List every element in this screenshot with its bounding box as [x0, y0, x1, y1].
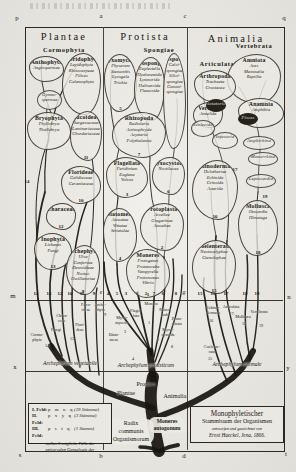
line-letter-e: e	[100, 289, 103, 295]
stem-label: 16	[209, 319, 213, 324]
stem-label: Cormo- phyta	[30, 333, 43, 342]
moneres-autogonum-label: Moneres autogonum	[149, 417, 185, 433]
legend-corners: p s t q	[48, 426, 74, 433]
stem-number: 4	[107, 291, 109, 296]
stem-number: 13	[47, 291, 52, 296]
stem-label: Chara- ceae	[56, 314, 67, 323]
stem-label: 1	[148, 321, 150, 326]
frame-letter-c: c	[183, 12, 186, 19]
stem-number: 17	[233, 167, 238, 172]
annotation-layer: PlantaeProtistaAnimaliapacqmnxysbdt14131…	[0, 0, 296, 472]
stem-number: 9	[93, 291, 95, 296]
stem-number: 1	[136, 291, 138, 296]
frame-letter-y: y	[286, 364, 289, 371]
stem-label: Proto- plasta	[172, 317, 182, 326]
stem-label: Flagel- lata	[130, 309, 142, 318]
trunk-kingdom-label-protista: Protista	[137, 380, 156, 387]
stem-number: 14	[25, 179, 30, 184]
legend-corners: p x y q	[48, 413, 74, 420]
frame-letter-t: t	[285, 450, 287, 457]
frame-letter-m: m	[10, 292, 15, 299]
stem-label: Fungi	[51, 328, 61, 333]
trunk-kingdom-label-animalia: Animalia	[163, 392, 186, 399]
stem-label: 18	[242, 322, 246, 327]
legend-count: (1 Stamm)	[74, 426, 94, 433]
legend-field-label: I. Feld:	[32, 407, 48, 414]
stem-label: Coelente- rata	[204, 345, 220, 354]
frame-letter-a: a	[99, 12, 102, 19]
stem-number: 17	[224, 291, 229, 296]
stem-number: 7	[153, 291, 155, 296]
stem-label: Articulata	[223, 305, 240, 310]
stem-label: Diato- meae	[109, 333, 120, 342]
stem-number: 14	[34, 291, 39, 296]
legend-row-2: II. Feld: p x y q (3 Stämme)	[32, 413, 108, 426]
stem-label: Vertebrata	[250, 310, 267, 315]
stem-number: 18	[243, 291, 248, 296]
legend-corners: p m n q	[48, 407, 74, 414]
stem-label: Arche- phyta	[94, 303, 106, 312]
haeckel-tree-plate: CormophytaAnthophytaAngiospermaePteridop…	[0, 0, 296, 472]
stem-label: 15	[208, 357, 212, 362]
stem-label: 19	[259, 324, 263, 329]
archephylum-label: Archephylum vegetabile	[43, 360, 97, 366]
stem-number: 8	[175, 291, 177, 296]
stem-number: 6	[162, 291, 164, 296]
stem-label: 14	[45, 344, 49, 349]
stem-number: 11	[80, 291, 85, 296]
frame-letter-n: n	[287, 293, 290, 300]
frame-letter-p: p	[15, 14, 18, 21]
stem-number: 16	[211, 291, 216, 296]
frame-letter-b: b	[99, 452, 102, 459]
legend-field-label: II. Feld:	[32, 413, 48, 426]
stem-label: Mollusca	[235, 315, 251, 320]
stem-label: 3	[124, 330, 126, 335]
stem-label: 8	[171, 345, 173, 350]
stem-label: Echino- dermata	[206, 306, 220, 315]
legend-row-1: I. Feld: p m n q (19 Stämme)	[32, 407, 108, 414]
plate-title-line2: Stammbaum der Organismen	[191, 418, 283, 425]
stem-label: Myxo- mycetes	[115, 316, 129, 325]
archephylum-label: Archephylum animale	[212, 361, 261, 367]
stem-label: Myxo- cystoda	[162, 328, 175, 337]
trunk-kingdom-label-plantae: Plantae	[117, 389, 135, 396]
line-letter-g: g	[183, 289, 186, 295]
frame-letter-s: s	[19, 451, 22, 458]
plate-title-author: Ernst Haeckel, Jena, 1866.	[191, 432, 283, 438]
legend-row-3: III. Feld: p s t q (1 Stamm)	[32, 426, 108, 439]
plate-title-box: Monophyletischer Stammbaum der Organisme…	[190, 406, 284, 443]
stem-number: 19	[263, 194, 268, 199]
stem-number: 3	[125, 291, 127, 296]
stem-label: Fuco- ideae	[81, 303, 91, 312]
kingdom-header-animalia: Animalia	[208, 33, 265, 44]
legend-box: I. Feld: p m n q (19 Stämme) II. Feld: p…	[28, 403, 112, 444]
stem-label: Monera	[144, 302, 157, 307]
legend-count: (3 Stämme)	[74, 413, 96, 420]
plate-title-line1: Monophyletischer	[191, 410, 283, 418]
stem-label: Flori- deae	[75, 323, 85, 332]
frame-letter-q: q	[282, 14, 285, 21]
stem-label: 17.	[229, 312, 234, 317]
stem-label: Rhizo- poda	[159, 308, 170, 317]
stem-number: 15	[198, 291, 203, 296]
kingdom-header-plantae: Plantae	[41, 31, 87, 42]
legend-field-label: III. Feld:	[32, 426, 48, 439]
legend-count: (19 Stämme)	[74, 407, 99, 414]
stem-number: 12	[58, 291, 63, 296]
stem-label: 13	[70, 337, 74, 342]
stem-number: 10	[68, 291, 73, 296]
stem-label: 9	[104, 313, 106, 318]
stem-number: 2	[145, 291, 147, 296]
stem-label: 2	[157, 338, 159, 343]
stem-label: 4	[132, 357, 134, 362]
frame-letter-x: x	[13, 363, 16, 370]
kingdom-header-protista: Protista	[120, 31, 170, 42]
stem-number: 5	[116, 291, 118, 296]
radix-label: Radix communis Organismorum	[108, 419, 154, 444]
stem-number: 19	[255, 291, 260, 296]
legend-note: stellen 3 mögliche Fälle der universalen…	[32, 441, 108, 452]
archephylum-label: Archephylum protisticum	[118, 362, 174, 368]
frame-letter-d: d	[182, 452, 185, 459]
